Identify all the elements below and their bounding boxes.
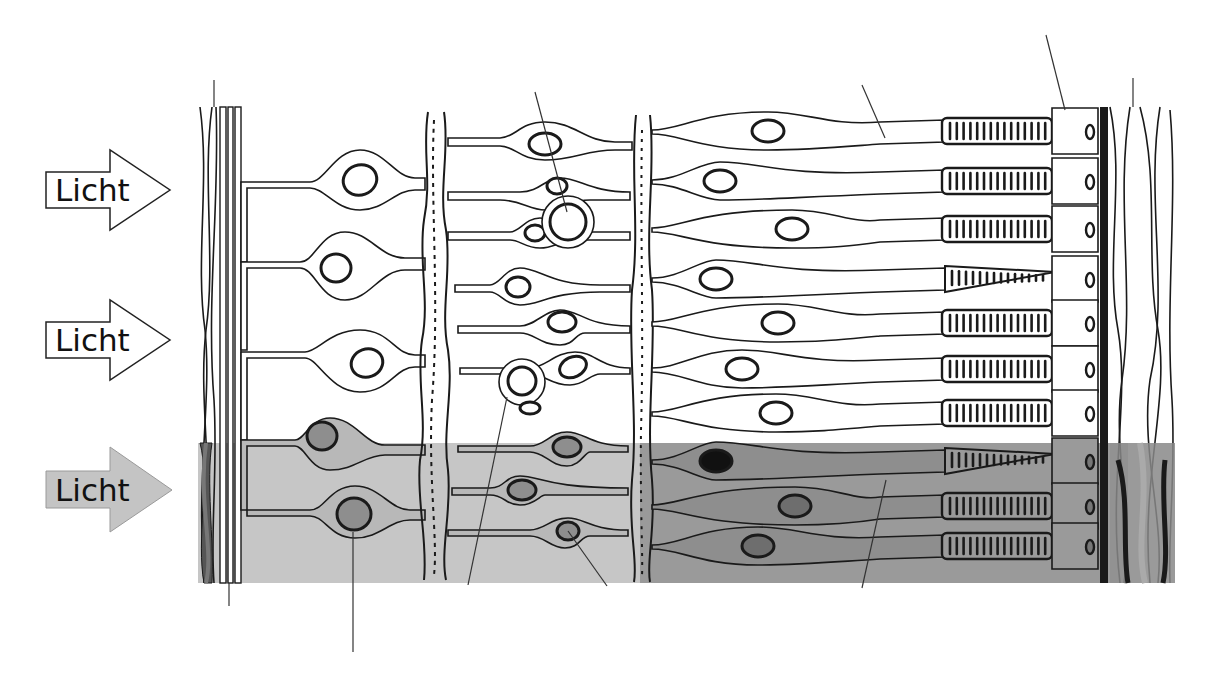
rod-cell xyxy=(652,206,1098,252)
photoreceptor-layer xyxy=(652,108,1098,569)
light-arrow-label: Licht xyxy=(55,322,130,358)
light-arrow-3-shaded: Licht xyxy=(46,447,172,532)
nerve-fiber-layer xyxy=(200,107,241,583)
leader-line xyxy=(1046,35,1065,110)
rod-cell xyxy=(652,346,1098,392)
cone-cell xyxy=(652,256,1098,302)
light-arrow-1: Licht xyxy=(46,150,170,230)
light-arrow-label: Licht xyxy=(55,472,130,508)
pigment-epithelium xyxy=(1100,107,1175,583)
rod-cell xyxy=(652,158,1098,204)
light-arrow-2: Licht xyxy=(46,300,170,380)
rod-cell xyxy=(652,300,1098,346)
retina-diagram: Licht Licht Licht xyxy=(0,0,1226,691)
light-arrow-label: Licht xyxy=(55,172,130,208)
rod-cell xyxy=(652,390,1098,436)
